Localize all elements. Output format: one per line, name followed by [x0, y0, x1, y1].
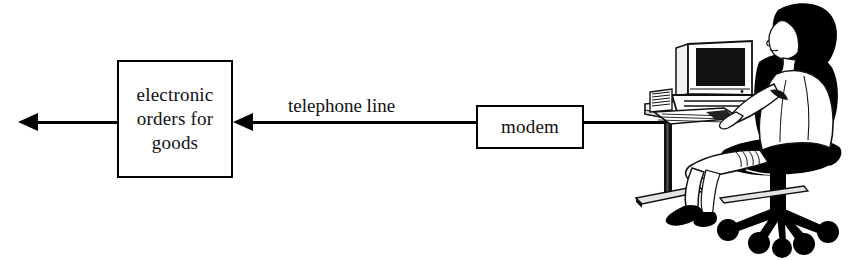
telephone-line-arrowhead-icon — [233, 113, 253, 131]
monitor-icon — [676, 41, 752, 96]
person-at-computer-illustration — [628, 0, 851, 260]
node-modem-label: modem — [501, 116, 559, 138]
modem-computer-connector-line — [583, 121, 667, 124]
diagram-canvas: electronic orders for goods telephone li… — [0, 0, 851, 260]
output-connector-line — [24, 121, 119, 124]
node-modem: modem — [476, 105, 584, 149]
telephone-line-label: telephone line — [288, 95, 395, 117]
telephone-connector-line — [241, 121, 477, 124]
node-electronic-orders: electronic orders for goods — [117, 60, 233, 178]
node-electronic-orders-label: electronic orders for goods — [119, 83, 231, 155]
output-arrowhead-icon — [18, 113, 38, 131]
